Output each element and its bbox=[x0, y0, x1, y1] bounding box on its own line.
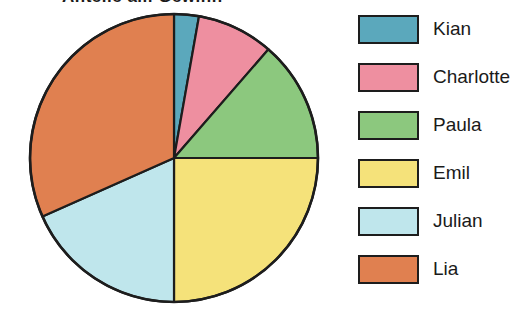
legend-label: Julian bbox=[433, 210, 483, 232]
legend-label: Paula bbox=[433, 114, 482, 136]
legend-swatch-emil bbox=[358, 159, 419, 188]
pie-slice-group bbox=[30, 14, 318, 302]
legend-item-charlotte: Charlotte bbox=[358, 62, 521, 92]
legend-label: Lia bbox=[433, 258, 458, 280]
pie-chart-figure: Anteile am Gewinn KianCharlottePaulaEmil… bbox=[0, 0, 521, 323]
legend-label: Charlotte bbox=[433, 66, 510, 88]
legend-item-kian: Kian bbox=[358, 14, 521, 44]
legend-swatch-paula bbox=[358, 111, 419, 140]
pie-plot-area bbox=[26, 10, 322, 306]
legend-label: Emil bbox=[433, 162, 470, 184]
legend-swatch-charlotte bbox=[358, 63, 419, 92]
legend-item-paula: Paula bbox=[358, 110, 521, 140]
cropped-title-remnant: Anteile am Gewinn bbox=[0, 0, 340, 7]
chart-legend: KianCharlottePaulaEmilJulianLia bbox=[358, 14, 521, 310]
legend-label: Kian bbox=[433, 18, 471, 40]
title-text: Anteile am Gewinn bbox=[62, 0, 223, 6]
legend-item-emil: Emil bbox=[358, 158, 521, 188]
legend-swatch-lia bbox=[358, 255, 419, 284]
pie-slice-emil bbox=[174, 158, 318, 302]
pie-svg bbox=[26, 10, 322, 306]
legend-swatch-kian bbox=[358, 15, 419, 44]
legend-swatch-julian bbox=[358, 207, 419, 236]
legend-item-lia: Lia bbox=[358, 254, 521, 284]
legend-item-julian: Julian bbox=[358, 206, 521, 236]
